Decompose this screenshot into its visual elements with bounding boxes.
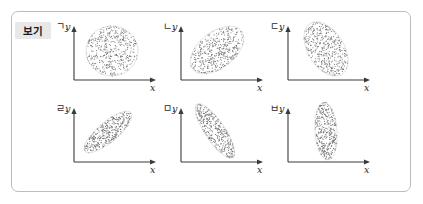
panel-label-g: ㄱ. [56,22,68,32]
panel-label-n: ㄴ. [163,22,175,32]
figure-frame: 보기 ㄱ. yx ㄴ. yx ㄷ. yx ㄹ. yx ㅁ. yx ㅂ. yx [11,11,411,192]
scatter-panel-r: ㄹ. yx [50,100,162,176]
panel-label-d: ㄷ. [270,22,282,32]
x-axis-label: x [364,82,370,93]
y-axis-arrowhead [71,26,76,32]
point-cloud [191,26,244,74]
panel-label-m: ㅁ. [163,104,175,114]
scatter-panel-b: ㅂ. yx [264,100,376,176]
bogi-chip: 보기 [15,22,51,39]
scatter-panel-m: ㅁ. yx [157,100,269,176]
y-axis-arrowhead [285,108,290,114]
scatter-panel-g: ㄱ. yx [50,18,162,94]
panel-label-r: ㄹ. [56,104,68,114]
scatter-panel-n: ㄴ. yx [157,18,269,94]
x-axis-label: x [257,82,263,93]
point-cloud [304,22,348,76]
blob-outline [181,17,252,84]
x-axis-label: x [150,164,156,175]
y-axis-arrowhead [71,108,76,114]
x-axis-label: x [257,164,263,175]
y-axis-arrowhead [178,108,183,114]
point-cloud [196,104,235,159]
point-cloud [84,111,132,153]
point-cloud [315,102,337,160]
y-axis-arrowhead [285,26,290,32]
panel-label-b: ㅂ. [270,104,282,114]
blob-outline [189,99,241,163]
x-axis-label: x [150,82,156,93]
scatter-panel-d: ㄷ. yx [264,18,376,94]
y-axis-arrowhead [178,26,183,32]
x-axis-label: x [364,164,370,175]
